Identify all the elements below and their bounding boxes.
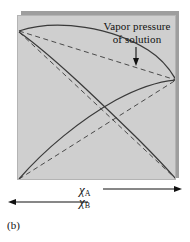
x-axis-label-chi-b: χB	[79, 194, 90, 210]
left-arrow-icon	[8, 199, 88, 205]
annotation-line-1: Vapor pressure	[103, 20, 170, 32]
chi-b-subscript: B	[85, 201, 90, 210]
right-arrow-icon	[103, 186, 182, 192]
vapor-pressure-annotation: Vapor pressure of solution	[91, 20, 183, 45]
down-arrow-icon	[133, 47, 139, 66]
annotation-line-2: of solution	[113, 33, 161, 45]
vapor-pressure-figure: Vapor pressure of solution χA χB (b)	[0, 0, 190, 242]
axis-arrows-canvas	[0, 182, 190, 216]
curve-partial-pressure-B-ideal-dashed	[19, 80, 176, 179]
curve-partial-pressure-A-ideal-dashed	[19, 32, 176, 179]
panel-label: (b)	[7, 219, 20, 231]
axis-labels-block: χA χB	[0, 182, 190, 216]
